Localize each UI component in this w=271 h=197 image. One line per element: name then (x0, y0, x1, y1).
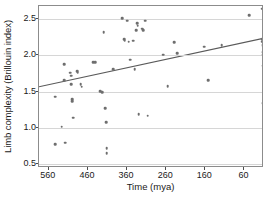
x-axis-label-text: Time (mya) (127, 181, 175, 192)
x-tick-label: 260 (147, 170, 183, 180)
x-axis-label: Time (mya) (38, 181, 263, 192)
scatter-plot-figure: Limb complexity (Brillouin index) 0.51.0… (0, 0, 271, 197)
x-tick-label: 560 (30, 170, 66, 180)
x-tick-mark (48, 167, 49, 170)
x-tick-mark (204, 167, 205, 170)
x-tick-mark (165, 167, 166, 170)
x-tick-mark (87, 167, 88, 170)
x-tick-label: 60 (225, 170, 261, 180)
x-tick-label: 360 (108, 170, 144, 180)
x-tick-label: 160 (186, 170, 222, 180)
x-axis-ticks: 56046036026016060 (0, 0, 271, 197)
x-tick-mark (126, 167, 127, 170)
x-tick-mark (243, 167, 244, 170)
x-tick-label: 460 (69, 170, 105, 180)
